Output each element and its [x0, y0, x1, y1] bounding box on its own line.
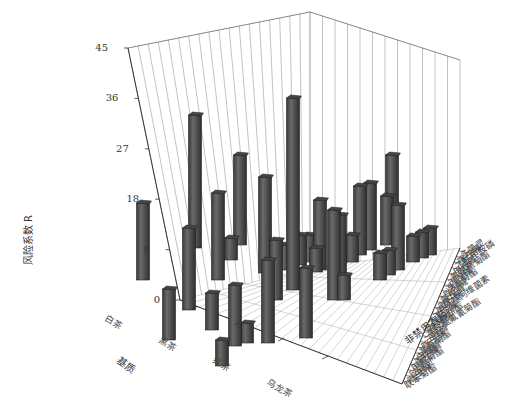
x-tick-label: 白茶	[103, 312, 124, 331]
bar	[225, 235, 240, 260]
bar	[229, 282, 244, 346]
z-tick-label: 9	[143, 244, 149, 255]
chart-canvas: 0918273645 白茶黑茶红茶乌龙茶 联苯菊酯吡虫啉哒螨灵甲氰菊酯毒死蜱虫螨…	[0, 0, 522, 412]
bar	[407, 233, 422, 262]
bar	[241, 320, 256, 343]
bar	[262, 257, 277, 343]
bar	[183, 225, 198, 310]
bar	[374, 250, 389, 280]
bar	[163, 286, 178, 340]
z-tick-label: 36	[106, 92, 119, 103]
bar	[137, 200, 152, 280]
z-tick-label: 27	[116, 143, 129, 154]
bar	[212, 190, 227, 280]
chart-3d-bar: 0918273645 白茶黑茶红茶乌龙茶 联苯菊酯吡虫啉哒螨灵甲氰菊酯毒死蜱虫螨…	[0, 0, 522, 412]
bar	[287, 95, 302, 290]
x-axis-title: 基质	[115, 354, 138, 375]
z-tick-label: 18	[126, 193, 139, 204]
x-tick-label: 乌龙茶	[265, 376, 294, 399]
z-axis-title: 风险系数 R	[22, 215, 34, 265]
bar	[300, 265, 315, 338]
z-tick-label: 0	[154, 294, 160, 305]
bars	[137, 95, 439, 366]
z-tick-label: 45	[95, 42, 108, 53]
bar	[346, 232, 361, 262]
bar	[206, 290, 221, 330]
bar	[338, 272, 353, 300]
bar	[234, 152, 249, 245]
